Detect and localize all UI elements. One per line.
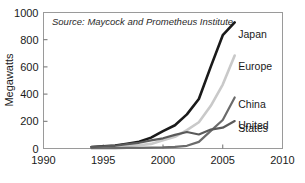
y-axis-tick-labels: 02004006008001000 [14,7,38,155]
x-tick-label: 2000 [151,154,175,166]
x-tick-label: 2010 [270,154,294,166]
y-tick-label: 400 [20,88,38,100]
solar-production-line-chart: 02004006008001000 19901995200020052010 M… [0,0,305,183]
series-label-japan: Japan [238,28,267,40]
y-tick-label: 200 [20,115,38,127]
y-tick-label: 1000 [14,7,38,19]
y-tick-label: 800 [20,34,38,46]
y-tick-label: 600 [20,61,38,73]
x-tick-label: 2005 [211,154,235,166]
chart-canvas: 02004006008001000 19901995200020052010 M… [0,0,305,183]
x-tick-label: 1990 [31,154,55,166]
y-axis-title: Megawatts [3,53,15,107]
series-label-europe: Europe [238,60,272,72]
x-axis-tick-labels: 19901995200020052010 [31,154,294,166]
series-label-china: China [238,98,266,110]
source-note: Source: Maycock and Prometheus Institute [52,16,233,27]
x-tick-label: 1995 [91,154,115,166]
series-label-united-states: States [238,122,268,134]
